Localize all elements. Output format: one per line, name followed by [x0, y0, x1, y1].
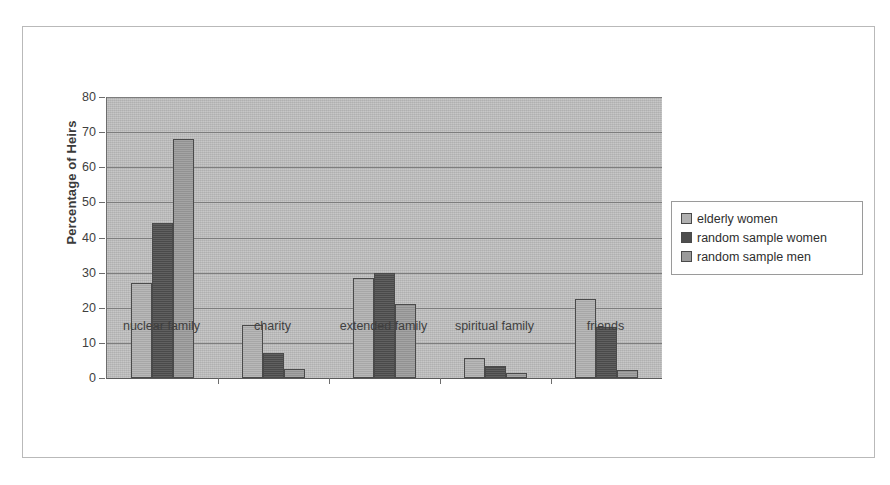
legend-swatch-icon	[681, 232, 692, 243]
bar-group	[575, 97, 638, 378]
bar-texture	[576, 300, 595, 377]
category-separator	[551, 378, 552, 384]
bar-group	[464, 97, 527, 378]
y-tick-80: 80	[82, 90, 107, 104]
bar[interactable]	[173, 139, 194, 378]
x-axis-label: charity	[217, 319, 328, 334]
legend-label: random sample men	[697, 250, 811, 264]
bar[interactable]	[263, 353, 284, 378]
legend-item[interactable]: elderly women	[681, 209, 853, 228]
y-tick-70: 70	[82, 125, 107, 139]
y-tick-20: 20	[82, 301, 107, 315]
bar-texture	[486, 367, 505, 377]
x-axis-label: nuclear family	[106, 319, 217, 334]
y-tick-40: 40	[82, 231, 107, 245]
bar[interactable]	[464, 358, 485, 378]
x-axis-label: friends	[550, 319, 661, 334]
bar-texture	[618, 371, 637, 377]
bar-group	[242, 97, 305, 378]
bar-chart: Percentage of Heirs 01020304050607080 nu…	[23, 27, 876, 459]
bar-group	[131, 97, 194, 378]
legend-item[interactable]: random sample men	[681, 247, 853, 266]
category-separator	[218, 378, 219, 384]
bar-texture	[507, 374, 526, 377]
legend-swatch-icon	[681, 251, 692, 262]
category-separator	[329, 378, 330, 384]
category-separator	[440, 378, 441, 384]
bar-texture	[174, 140, 193, 377]
y-axis-title: Percentage of Heirs	[64, 83, 79, 283]
bar-texture	[285, 370, 304, 377]
plot-area: 01020304050607080	[106, 97, 662, 379]
bar-texture	[465, 359, 484, 377]
legend-label: random sample women	[697, 231, 827, 245]
y-tick-0: 0	[89, 371, 107, 385]
bar[interactable]	[575, 299, 596, 378]
bar[interactable]	[506, 373, 527, 378]
bar[interactable]	[617, 370, 638, 378]
figure-frame: Percentage of Heirs 01020304050607080 nu…	[22, 26, 875, 458]
bar-texture	[597, 328, 616, 377]
y-tick-60: 60	[82, 160, 107, 174]
y-tick-10: 10	[82, 336, 107, 350]
legend: elderly womenrandom sample womenrandom s…	[671, 201, 863, 275]
x-axis-label: extended family	[328, 319, 439, 334]
bar[interactable]	[284, 369, 305, 378]
y-tick-30: 30	[82, 266, 107, 280]
bar[interactable]	[596, 327, 617, 378]
x-axis-label: spiritual family	[439, 319, 550, 334]
bar-texture	[153, 224, 172, 377]
legend-item[interactable]: random sample women	[681, 228, 853, 247]
legend-label: elderly women	[697, 212, 778, 226]
y-tick-50: 50	[82, 195, 107, 209]
bar[interactable]	[395, 304, 416, 378]
legend-swatch-icon	[681, 213, 692, 224]
gridline-0	[107, 378, 662, 379]
bar[interactable]	[485, 366, 506, 378]
bar-texture	[396, 305, 415, 377]
bar-texture	[264, 354, 283, 377]
bar-group	[353, 97, 416, 378]
bar[interactable]	[152, 223, 173, 378]
